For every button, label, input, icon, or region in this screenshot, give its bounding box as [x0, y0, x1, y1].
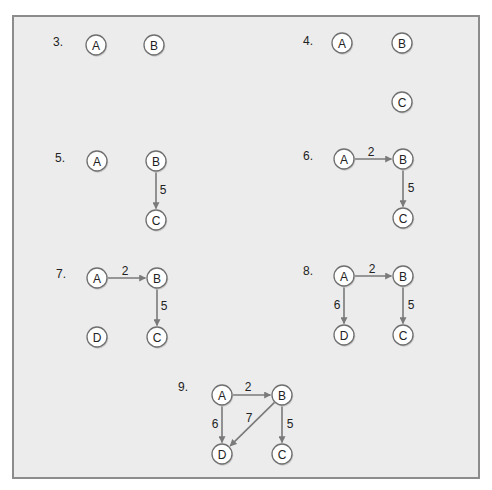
node-label: C [399, 212, 408, 226]
node-label: A [340, 153, 348, 167]
node-label: B [278, 389, 286, 403]
node-b: B [144, 35, 165, 57]
edge-weight-label: 2 [245, 380, 252, 394]
panel-label: 3. [53, 35, 63, 49]
node-a: A [334, 266, 355, 288]
node-b: B [272, 385, 293, 407]
edge-weight-label: 5 [161, 299, 168, 313]
node-label: C [398, 96, 407, 110]
node-label: A [340, 270, 348, 284]
node-b: B [146, 151, 167, 173]
node-label: C [152, 214, 161, 228]
node-label: B [150, 39, 158, 53]
node-c: C [146, 210, 167, 232]
node-b: B [393, 266, 414, 288]
edge-weight-label: 5 [408, 181, 415, 195]
node-c: C [393, 325, 414, 347]
panel-label: 5. [55, 151, 65, 165]
node-label: D [218, 448, 227, 462]
node-c: C [392, 92, 413, 114]
node-a: A [334, 149, 355, 171]
panel-step-7: 7.25ABDC [56, 264, 168, 349]
edge-weight-label: 5 [408, 298, 415, 312]
node-c: C [272, 444, 293, 466]
node-label: B [399, 270, 407, 284]
edge-weight-label: 7 [246, 411, 253, 425]
node-a: A [87, 268, 108, 290]
node-a: A [212, 385, 233, 407]
node-label: B [399, 153, 407, 167]
node-a: A [332, 33, 353, 55]
node-a: A [86, 35, 107, 57]
edge-weight-label: 2 [368, 145, 375, 159]
node-label: C [278, 448, 287, 462]
panel-step-6: 6.25ABC [303, 145, 415, 230]
edge-weight-label: 6 [334, 298, 341, 312]
panel-label: 7. [56, 267, 66, 281]
node-label: C [399, 329, 408, 343]
node-b: B [392, 33, 413, 55]
node-label: B [398, 37, 406, 51]
edge-weight-label: 2 [369, 262, 376, 276]
panel-label: 9. [178, 380, 188, 394]
node-a: A [87, 151, 108, 173]
node-label: C [153, 331, 162, 345]
panel-step-8: 8.265ABDC [303, 262, 415, 347]
node-label: A [338, 37, 346, 51]
node-label: D [93, 331, 102, 345]
node-d: D [334, 325, 355, 347]
node-label: D [340, 329, 349, 343]
panel-step-3: 3.AB [53, 35, 165, 57]
node-label: A [93, 155, 101, 169]
edge-weight-label: 2 [122, 264, 129, 278]
panel-step-9: 9.2675ABDC [178, 380, 294, 466]
edge-weight-label: 6 [212, 417, 219, 431]
panel-label: 6. [303, 149, 313, 163]
node-label: B [152, 155, 160, 169]
node-label: A [93, 272, 101, 286]
node-label: A [218, 389, 226, 403]
node-label: B [153, 272, 161, 286]
node-b: B [393, 149, 414, 171]
panel-step-5: 5.5ABC [55, 151, 167, 232]
node-d: D [212, 444, 233, 466]
edge-weight-label: 5 [287, 417, 294, 431]
node-c: C [393, 208, 414, 230]
node-c: C [147, 327, 168, 349]
node-label: A [92, 39, 100, 53]
edge-weight-label: 5 [160, 183, 167, 197]
panel-label: 8. [303, 264, 313, 278]
node-d: D [87, 327, 108, 349]
panel-step-4: 4.ABC [303, 33, 413, 114]
edge-b-to-d-arrow [230, 402, 274, 446]
node-b: B [147, 268, 168, 290]
panel-label: 4. [303, 34, 313, 48]
graph-build-diagram: 3.AB4.ABC5.5ABC6.25ABC7.25ABDC8.265ABDC9… [0, 0, 492, 490]
panels-layer: 3.AB4.ABC5.5ABC6.25ABC7.25ABDC8.265ABDC9… [53, 33, 415, 466]
